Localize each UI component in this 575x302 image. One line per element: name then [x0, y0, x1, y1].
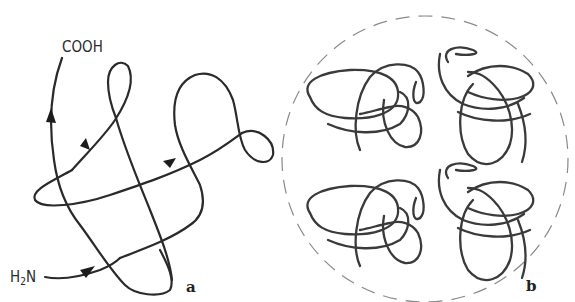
- knot-top-right: [439, 47, 533, 164]
- direction-arrow-3: [80, 138, 90, 150]
- chain-segment-nterm: [45, 258, 120, 278]
- panel-a-knot: COOH H2N a: [10, 38, 273, 296]
- n-terminus-n: N: [26, 268, 36, 286]
- panel-a-label: a: [186, 278, 196, 296]
- n-terminus-label: H2N: [10, 268, 36, 287]
- panel-b-label: b: [526, 277, 537, 295]
- direction-arrow-2: [163, 158, 176, 168]
- chain-segment-cterm: [51, 58, 171, 295]
- knot-top-left: [307, 64, 423, 150]
- panel-b: b: [282, 16, 568, 302]
- c-terminus-label: COOH: [62, 38, 103, 56]
- knot-bottom-left: [307, 180, 423, 266]
- chain-segment-rightloop: [120, 74, 273, 258]
- n-terminus-h: H: [10, 268, 20, 286]
- chain-segment-mid: [34, 133, 242, 205]
- figure-canvas: COOH H2N a: [0, 0, 575, 302]
- direction-arrow-4: [46, 108, 56, 123]
- chain-segment-toploop: [72, 63, 131, 170]
- knot-bottom-right: [439, 163, 533, 280]
